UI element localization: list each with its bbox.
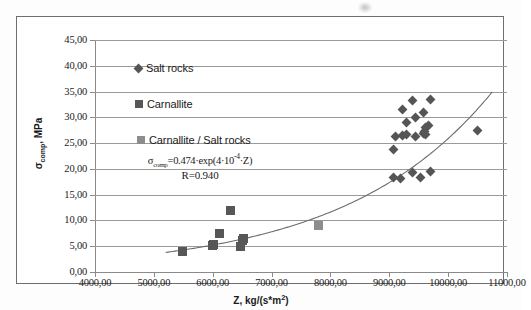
legend-square-icon xyxy=(137,136,145,144)
y-tick-label: 20,00 xyxy=(43,164,87,175)
legend-item-label: Carnallite / Salt rocks xyxy=(149,134,251,146)
y-tick-label: 30,00 xyxy=(43,112,87,123)
legend-item-label: Salt rocks xyxy=(146,62,193,74)
y-tick-label: 45,00 xyxy=(43,35,87,46)
data-point-square xyxy=(226,206,235,215)
legend-square-icon xyxy=(135,100,143,108)
chart-frame: σcomp, MPa 0,005,0010,0015,0020,0025,003… xyxy=(16,16,504,284)
scan-artifact-smudge xyxy=(358,2,372,13)
legend-item-label: Carnallite xyxy=(147,98,192,110)
y-tick-label: 10,00 xyxy=(43,215,87,226)
legend-item-carnallite-salt-rocks[interactable]: Carnallite / Salt rocks xyxy=(137,134,251,146)
y-tick-label: 0,00 xyxy=(43,267,87,278)
equation-body: =0.474·exp(4·10 xyxy=(168,155,234,166)
x-axis-title: Z, kg/(s*m2) xyxy=(17,293,505,306)
data-point-square xyxy=(314,221,323,230)
regression-equation-text: σcomp=0.474·exp(4·10-4·Z) xyxy=(125,153,275,169)
y-tick-label: 40,00 xyxy=(43,61,87,72)
regression-annotation: σcomp=0.474·exp(4·10-4·Z) R=0.940 xyxy=(125,153,275,181)
equation-subscript: comp xyxy=(153,161,167,169)
x-tick-label: 11000,00 xyxy=(472,278,531,289)
data-point-square xyxy=(209,240,218,249)
x-axis-title-tail: ) xyxy=(285,295,288,306)
y-tick-label: 15,00 xyxy=(43,190,87,201)
legend-diamond-icon xyxy=(134,63,144,73)
data-point-square xyxy=(239,234,248,243)
correlation-coefficient-text: R=0.940 xyxy=(125,169,275,182)
x-axis-title-main: Z, kg/(s*m xyxy=(233,295,281,306)
y-tick-label: 35,00 xyxy=(43,87,87,98)
y-tick-label: 5,00 xyxy=(43,241,87,252)
y-tick-label: 25,00 xyxy=(43,138,87,149)
data-point-square xyxy=(215,229,224,238)
equation-tail: ·Z) xyxy=(240,155,253,166)
data-point-square xyxy=(178,247,187,256)
legend-item-carnallite[interactable]: Carnallite xyxy=(135,98,192,110)
legend-item-salt-rocks[interactable]: Salt rocks xyxy=(135,62,193,74)
x-axis-line xyxy=(95,272,507,273)
